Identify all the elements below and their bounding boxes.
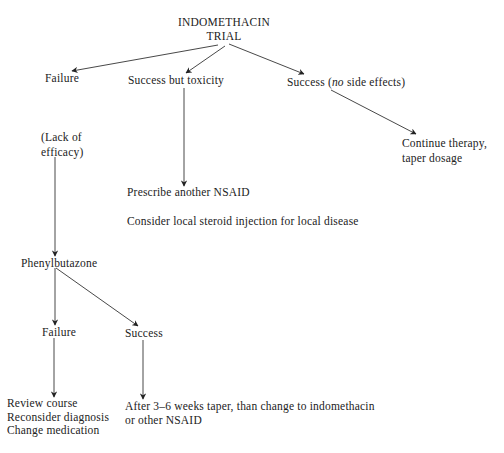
success-italic-no: no	[332, 76, 344, 88]
node-lack-of-efficacy: (Lack of efficacy)	[41, 130, 83, 159]
node-prescribe-another-nsaid: Prescribe another NSAID	[127, 186, 250, 200]
after-taper-line-2: or other NSAID	[125, 414, 375, 428]
review-course-line-3: Change medication	[7, 424, 109, 438]
success-suffix: side effects)	[344, 76, 405, 88]
node-continue-therapy: Continue therapy, taper dosage	[402, 136, 487, 165]
node-indomethacin-trial: INDOMETHACIN TRIAL	[176, 16, 272, 43]
edge-root-to-success-no-side-effects	[229, 44, 304, 74]
review-course-line-2: Reconsider diagnosis	[7, 411, 109, 425]
node-title-line-2: TRIAL	[176, 30, 272, 44]
node-review-course: Review course Reconsider diagnosis Chang…	[7, 397, 109, 438]
node-success-no-side-effects: Success (no side effects)	[287, 76, 405, 90]
success-prefix: Success (	[287, 76, 332, 88]
node-failure: Failure	[45, 72, 79, 86]
after-taper-line-1: After 3–6 weeks taper, than change to in…	[125, 400, 375, 414]
edge-success-to-continue-therapy	[331, 90, 416, 134]
review-course-line-1: Review course	[7, 397, 109, 411]
edge-root-to-failure	[72, 45, 218, 71]
node-success-but-toxicity: Success but toxicity	[128, 74, 224, 88]
node-consider-steroid-injection: Consider local steroid injection for loc…	[127, 215, 359, 229]
node-phenylbutazone-success: Success	[125, 327, 163, 341]
lack-efficacy-line-1: (Lack of	[41, 130, 83, 145]
continue-therapy-line-1: Continue therapy,	[402, 136, 487, 151]
node-after-taper: After 3–6 weeks taper, than change to in…	[125, 400, 375, 427]
node-phenylbutazone: Phenylbutazone	[21, 257, 97, 271]
node-title-line-1: INDOMETHACIN	[176, 16, 272, 30]
lack-efficacy-line-2: efficacy)	[41, 145, 83, 160]
continue-therapy-line-2: taper dosage	[402, 151, 487, 166]
edge-phenylbutazone-to-success	[56, 268, 138, 326]
node-phenylbutazone-failure: Failure	[42, 326, 76, 340]
